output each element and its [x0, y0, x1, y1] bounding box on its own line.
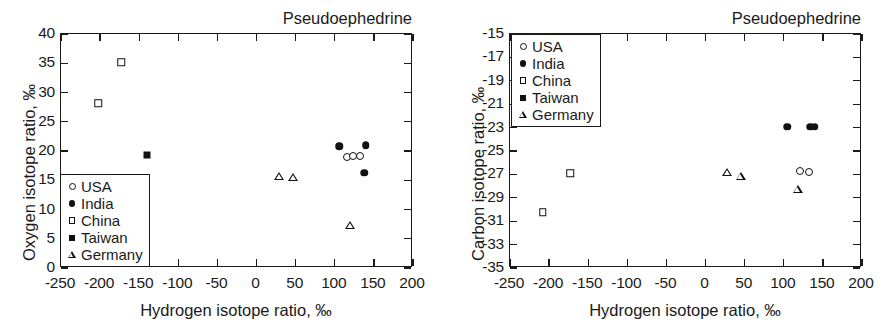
- y-tick: [61, 150, 68, 151]
- square-open-glyph: [69, 217, 76, 224]
- triangle-open-icon: [65, 251, 79, 258]
- y-tick: [853, 244, 860, 245]
- y-tick-label: 5: [47, 230, 55, 246]
- legend-label: China: [81, 213, 120, 228]
- y-tick: [853, 127, 860, 128]
- y-tick: [404, 150, 411, 151]
- x-tick: [666, 259, 667, 266]
- x-tick-label: 0: [251, 275, 259, 291]
- x-tick-label: 0: [700, 275, 708, 291]
- circle-filled-glyph: [520, 60, 527, 67]
- x-tick: [588, 259, 589, 266]
- legend-label: Germany: [532, 107, 594, 122]
- y-tick-label: 0: [47, 259, 55, 275]
- legend-box: USAIndiaChinaTaiwanGermany: [511, 34, 601, 127]
- x-tick: [744, 34, 745, 41]
- legend-label: USA: [81, 179, 112, 194]
- data-point-usa: [349, 152, 357, 160]
- y-tick: [510, 221, 517, 222]
- y-tick-label: 20: [38, 142, 55, 158]
- data-point-germany: [345, 221, 355, 229]
- legend-label: India: [81, 196, 114, 211]
- data-point-china: [95, 99, 103, 107]
- y-tick: [404, 209, 411, 210]
- legend-item-india: India: [65, 195, 143, 212]
- data-point-germany: [288, 173, 298, 181]
- square-filled-icon: [65, 235, 79, 241]
- y-axis-title: Oxygen isotope ratio, ‰: [20, 84, 39, 261]
- legend-label: China: [532, 73, 571, 88]
- legend-item-india: India: [516, 55, 594, 72]
- circle-filled-icon: [65, 200, 79, 207]
- x-tick: [178, 34, 179, 41]
- y-tick: [510, 150, 517, 151]
- legend-box: USAIndiaChinaTaiwanGermany: [60, 174, 150, 267]
- x-tick: [822, 259, 823, 266]
- data-point-germany: [722, 168, 732, 176]
- x-axis-title: Hydrogen isotope ratio, ‰: [140, 301, 332, 320]
- x-tick-label: -250: [494, 275, 524, 291]
- y-tick: [853, 267, 860, 268]
- y-tick-label: 25: [38, 113, 55, 129]
- x-tick: [373, 34, 374, 41]
- x-tick-label: 200: [848, 275, 873, 291]
- y-tick-label: 15: [38, 172, 55, 188]
- x-tick: [627, 34, 628, 41]
- circle-open-glyph: [520, 43, 527, 50]
- square-open-glyph: [520, 77, 527, 84]
- x-tick: [705, 259, 706, 266]
- x-tick-label: -100: [611, 275, 641, 291]
- y-tick: [404, 92, 411, 93]
- x-tick: [822, 34, 823, 41]
- y-axis-title: Carbon isotope ratio, ‰: [469, 87, 488, 261]
- data-point-india: [336, 143, 344, 151]
- x-tick: [627, 259, 628, 266]
- y-tick: [510, 197, 517, 198]
- data-point-usa: [356, 152, 364, 160]
- x-tick: [861, 259, 862, 266]
- x-tick-label: -200: [84, 275, 114, 291]
- x-tick: [99, 34, 100, 41]
- x-tick: [256, 259, 257, 266]
- x-tick-label: 100: [770, 275, 795, 291]
- y-tick-label: -19: [482, 72, 504, 88]
- y-tick: [510, 244, 517, 245]
- x-tick-label: -150: [123, 275, 153, 291]
- x-tick: [139, 34, 140, 41]
- y-tick: [853, 221, 860, 222]
- y-tick-label: -15: [482, 25, 504, 41]
- y-tick: [61, 63, 68, 64]
- triangle-open-glyph: [68, 251, 76, 258]
- y-tick: [61, 121, 68, 122]
- legend-item-china: China: [65, 212, 143, 229]
- y-tick-label: 40: [38, 25, 55, 41]
- circle-filled-glyph: [69, 200, 76, 207]
- y-tick: [853, 174, 860, 175]
- triangle-open-icon: [516, 111, 530, 118]
- data-point-china: [117, 59, 125, 67]
- x-tick: [412, 34, 413, 41]
- data-point-germany: [793, 185, 803, 193]
- x-tick-label: -150: [572, 275, 602, 291]
- y-tick: [510, 267, 517, 268]
- y-tick: [853, 197, 860, 198]
- x-tick-label: -50: [206, 275, 228, 291]
- legend-item-china: China: [516, 72, 594, 89]
- x-axis-title: Hydrogen isotope ratio, ‰: [589, 301, 781, 320]
- x-tick: [217, 34, 218, 41]
- legend-item-usa: USA: [65, 178, 143, 195]
- x-tick-label: 200: [399, 275, 424, 291]
- y-tick: [61, 267, 68, 268]
- square-filled-icon: [516, 95, 530, 101]
- isotope-scatter-figure: -250-200-150-100-50050100150200051015202…: [0, 0, 893, 336]
- y-tick-label: 10: [38, 201, 55, 217]
- legend-label: Taiwan: [81, 230, 128, 245]
- y-tick: [404, 238, 411, 239]
- y-tick: [404, 121, 411, 122]
- x-tick-label: 150: [809, 275, 834, 291]
- y-tick: [404, 63, 411, 64]
- x-tick: [705, 34, 706, 41]
- x-tick: [334, 34, 335, 41]
- square-open-icon: [65, 217, 79, 224]
- x-tick: [295, 259, 296, 266]
